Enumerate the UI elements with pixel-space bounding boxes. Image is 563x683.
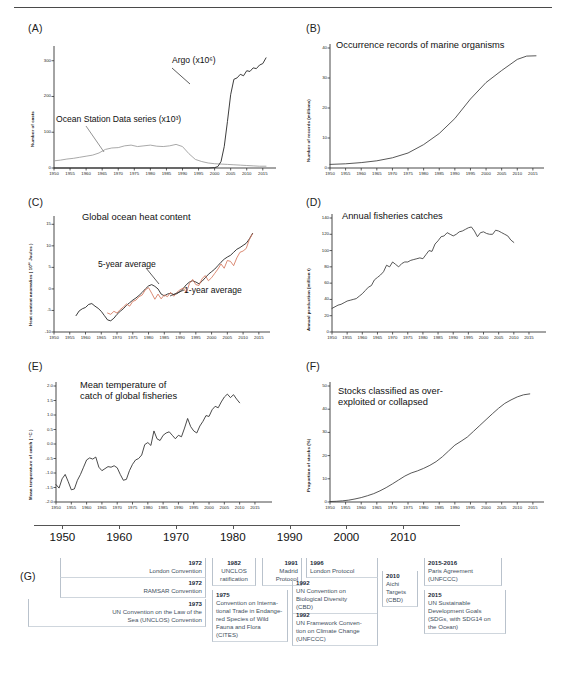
x-tick-label: 1950 (49, 335, 59, 340)
x-tick-label: 1975 (128, 505, 138, 510)
x-tick-label: 1995 (466, 505, 476, 510)
y-tick-label: 40 (306, 296, 329, 301)
x-tick-label: 1980 (144, 335, 154, 340)
timeline-event-year: 1973 (32, 600, 202, 608)
y-tick-label: 40 (304, 406, 327, 411)
timeline-event: 1973UN Convention on the Law of the Sea … (28, 599, 206, 627)
x-tick-label: 1985 (158, 505, 168, 510)
timeline-year-label: 2010 (390, 530, 416, 543)
x-tick-label: 1960 (356, 171, 366, 176)
timeline-event-text: London Protocol (310, 567, 374, 575)
panel-c: (C) Heat content anomalies ( 10²² Joules… (22, 196, 280, 348)
x-tick-label: 1970 (388, 335, 398, 340)
x-tick-label: 1955 (67, 505, 77, 510)
x-tick-label: 1995 (194, 171, 204, 176)
x-tick-label: 1950 (325, 505, 335, 510)
panel-g-label: (G) (20, 570, 36, 582)
timeline-event-text: London Convention (64, 567, 202, 575)
panel-e: (E) Mean temperature of catch ( °C ) Mea… (22, 360, 280, 515)
y-tick-label: 140 (306, 215, 329, 220)
y-tick-label: 80 (306, 264, 329, 269)
y-tick-label: 60 (306, 280, 329, 285)
timeline-tick (119, 525, 120, 529)
panel-f: (F) Proportion of stocks (%) Stocks clas… (300, 360, 550, 515)
timeline-event-text: Convention on Interna- tional Trade in E… (216, 599, 284, 639)
x-tick-label: 1985 (434, 505, 444, 510)
timeline-event: 1975Convention on Interna- tional Trade … (212, 590, 288, 642)
x-tick-label: 1950 (51, 505, 61, 510)
x-tick-label: 1995 (466, 171, 476, 176)
y-tick-label: 1.5 (30, 398, 53, 403)
x-tick-label: 1965 (97, 505, 107, 510)
timeline-event-text: UN Convention on Biological Diversity (C… (296, 587, 374, 611)
timeline-event-year: 1972 (64, 559, 202, 567)
x-tick-label: 1980 (419, 171, 429, 176)
timeline-event-year: 2015 (428, 591, 502, 599)
y-tick-label: 30 (304, 429, 327, 434)
y-tick-label: 0 (28, 286, 51, 291)
x-tick-label: 1950 (49, 171, 59, 176)
x-tick-label: 1970 (388, 505, 398, 510)
panel-a-argo-annotation: Argo (x10⁶) (172, 55, 216, 65)
y-tick-label: -10 (28, 329, 51, 334)
timeline-event-text: UN Framework Conven- tion on Climate Cha… (296, 619, 374, 643)
x-tick-label: 2000 (479, 335, 489, 340)
y-tick-label: 0.5 (30, 427, 53, 432)
x-tick-label: 1990 (448, 335, 458, 340)
x-tick-label: 1990 (178, 171, 188, 176)
y-tick-label: -5 (28, 307, 51, 312)
timeline-event: 1992UN Framework Conven- tion on Climate… (292, 610, 378, 646)
y-tick-label: 10 (304, 476, 327, 481)
x-tick-label: 2010 (242, 171, 252, 176)
x-tick-label: 1990 (175, 335, 185, 340)
x-tick-label: 1980 (146, 171, 156, 176)
x-tick-label: 1970 (112, 335, 122, 340)
panel-c-1yr-annotation: 1-year average (184, 285, 242, 295)
panel-c-title: Global ocean heat content (82, 212, 191, 223)
y-tick-label: 10 (304, 135, 327, 140)
timeline-year-label: 1980 (220, 530, 246, 543)
timeline-event-year: 1992 (296, 579, 374, 587)
panel-a: (A) Number of casts Ocean Station Data s… (22, 22, 280, 182)
x-tick-label: 1985 (160, 335, 170, 340)
x-tick-label: 1960 (81, 335, 91, 340)
y-tick-label: 200 (28, 93, 51, 98)
timeline-event-year: 1975 (216, 591, 284, 599)
panel-b-title: Occurrence records of marine organisms (336, 40, 504, 51)
x-tick-label: 1985 (433, 335, 443, 340)
x-tick-label: 1970 (388, 171, 398, 176)
x-tick-label: 1980 (419, 505, 429, 510)
x-tick-label: 1995 (189, 505, 199, 510)
timeline-event: 1996London Protocol (306, 558, 378, 578)
timeline-event-text: UNCLOS ratification (216, 567, 252, 583)
x-tick-label: 2015 (528, 171, 538, 176)
x-tick-label: 2000 (204, 505, 214, 510)
timeline-year-label: 1990 (277, 530, 303, 543)
x-tick-label: 2005 (223, 335, 233, 340)
timeline-event-year: 1992 (296, 611, 374, 619)
y-tick-label: 300 (28, 58, 51, 63)
x-tick-label: 1995 (191, 335, 201, 340)
x-tick-label: 2010 (512, 505, 522, 510)
x-tick-label: 2005 (220, 505, 230, 510)
x-tick-label: 1970 (113, 171, 123, 176)
timeline-year-label: 2000 (333, 530, 359, 543)
x-tick-label: 2010 (235, 505, 245, 510)
y-tick-label: 30 (304, 75, 327, 80)
x-tick-label: 2015 (524, 335, 534, 340)
timeline-event-text: Paris Agreement (UNFCCC) (428, 567, 498, 583)
y-tick-label: 15 (28, 221, 51, 226)
y-tick-label: 50 (304, 383, 327, 388)
header-rule (14, 7, 552, 8)
x-tick-label: 1975 (128, 335, 138, 340)
x-tick-label: 2015 (250, 505, 260, 510)
x-tick-label: 1975 (403, 171, 413, 176)
timeline-event-year: 2010 (386, 572, 414, 580)
x-tick-label: 1960 (82, 505, 92, 510)
panel-b: (B) Number of records (millions) Occurre… (300, 22, 550, 182)
y-tick-label: -0.5 (30, 456, 53, 461)
x-tick-label: 1955 (342, 335, 352, 340)
x-tick-label: 2000 (481, 505, 491, 510)
timeline-tick (176, 525, 177, 529)
x-tick-label: 1985 (162, 171, 172, 176)
